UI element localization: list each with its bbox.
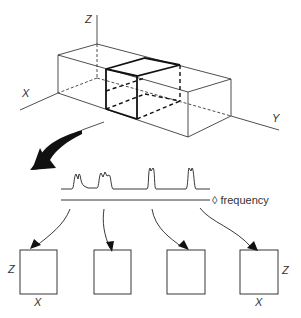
volume-box bbox=[20, 15, 279, 137]
slice-4-x-label: X bbox=[255, 297, 262, 308]
slice-boxes bbox=[20, 250, 278, 294]
slice-arrows bbox=[35, 208, 252, 248]
frequency-marker: ◊ frequency bbox=[212, 195, 269, 206]
diamond-icon: ◊ bbox=[212, 194, 217, 206]
slice-2 bbox=[94, 250, 131, 294]
frequency-label: frequency bbox=[221, 194, 269, 206]
slice-4 bbox=[240, 250, 278, 294]
selected-cube bbox=[106, 58, 180, 119]
spectrum-trace bbox=[61, 168, 210, 200]
slice-3 bbox=[167, 250, 205, 294]
diagram-canvas bbox=[0, 0, 301, 318]
x-axis-label: X bbox=[22, 88, 29, 99]
slice-4-z-label: Z bbox=[282, 265, 289, 276]
z-axis-label: Z bbox=[85, 14, 92, 25]
transform-arrow bbox=[30, 122, 104, 170]
y-axis-label: Y bbox=[272, 113, 279, 124]
slice-1-x-label: X bbox=[34, 297, 41, 308]
slice-1-z-label: Z bbox=[8, 264, 15, 275]
slice-arrowheads bbox=[30, 239, 258, 252]
slice-1 bbox=[20, 250, 57, 294]
